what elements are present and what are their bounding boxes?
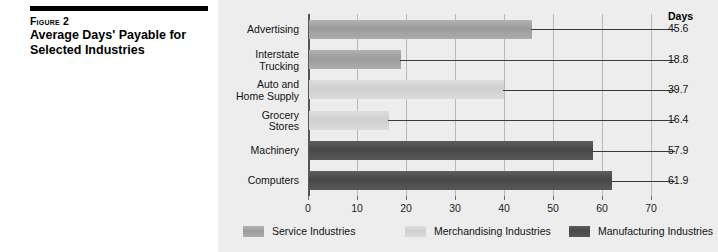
x-axis-tick — [455, 196, 456, 200]
plot-area: 010203040506070AdvertisingInterstateTruc… — [308, 14, 651, 196]
value-leader-line — [531, 29, 675, 30]
figure-number-label: Figure 2 — [30, 15, 69, 27]
days-value: 45.6 — [668, 22, 688, 34]
gridline — [455, 14, 456, 196]
bar — [309, 80, 504, 99]
legend-swatch — [243, 226, 264, 237]
category-label-line: Stores — [269, 120, 299, 132]
category-label-line: Machinery — [251, 144, 299, 156]
y-axis-line — [308, 14, 310, 196]
days-value: 57.9 — [668, 144, 688, 156]
value-leader-line — [611, 181, 675, 182]
value-leader-line — [503, 90, 675, 91]
value-leader-line — [592, 151, 675, 152]
category-label-line: Trucking — [259, 60, 299, 72]
x-axis-tick-label: 30 — [449, 202, 461, 214]
legend-item: Manufacturing Industries — [569, 225, 713, 237]
bar — [309, 141, 593, 160]
x-axis-tick — [553, 196, 554, 200]
legend-label: Service Industries — [272, 225, 355, 237]
category-label-line: Advertising — [247, 23, 299, 35]
days-value: 18.8 — [668, 53, 688, 65]
x-axis-tick — [308, 196, 309, 200]
x-axis-tick-label: 0 — [305, 202, 311, 214]
x-axis-tick — [651, 196, 652, 200]
bar — [309, 111, 389, 130]
gridline — [406, 14, 407, 196]
days-value: 16.4 — [668, 113, 688, 125]
value-leader-line — [400, 60, 675, 61]
x-axis-tick — [406, 196, 407, 200]
x-axis-tick — [504, 196, 505, 200]
category-label: Computers — [248, 175, 299, 187]
category-label: GroceryStores — [262, 110, 299, 133]
category-label: Machinery — [251, 145, 299, 157]
legend-item: Merchandising Industries — [405, 225, 551, 237]
figure-title: Average Days' Payable for Selected Indus… — [30, 28, 210, 57]
x-axis-tick-label: 50 — [547, 202, 559, 214]
legend-swatch — [405, 226, 426, 237]
gridline — [602, 14, 603, 196]
gridline — [357, 14, 358, 196]
days-column-header: Days — [668, 10, 693, 22]
legend-item: Service Industries — [243, 225, 355, 237]
legend-label: Manufacturing Industries — [598, 225, 713, 237]
figure-title-line-1: Average Days' Payable for — [30, 28, 186, 42]
x-axis-tick-label: 10 — [351, 202, 363, 214]
days-value: 61.9 — [668, 174, 688, 186]
x-axis-tick-label: 20 — [400, 202, 412, 214]
legend-label: Merchandising Industries — [434, 225, 551, 237]
figure-title-line-2: Selected Industries — [30, 43, 145, 57]
category-label: InterstateTrucking — [255, 49, 299, 72]
category-label-line: Interstate — [255, 48, 299, 60]
category-label: Advertising — [247, 24, 299, 36]
category-label: Auto andHome Supply — [236, 79, 299, 102]
category-label-line: Grocery — [262, 109, 299, 121]
gridline — [504, 14, 505, 196]
x-axis-tick-label: 70 — [645, 202, 657, 214]
x-axis-tick — [357, 196, 358, 200]
category-label-line: Computers — [248, 174, 299, 186]
chart-panel: 010203040506070AdvertisingInterstateTruc… — [218, 0, 718, 252]
category-label-line: Home Supply — [236, 90, 299, 102]
value-leader-line — [388, 120, 675, 121]
days-value: 39.7 — [668, 83, 688, 95]
figure-caption-block: Figure 2 Average Days' Payable for Selec… — [0, 0, 218, 252]
figure-root: Figure 2 Average Days' Payable for Selec… — [0, 0, 718, 252]
legend-swatch — [569, 226, 590, 237]
gridline — [553, 14, 554, 196]
bar — [309, 20, 532, 39]
x-axis-tick-label: 60 — [596, 202, 608, 214]
category-label-line: Auto and — [257, 78, 299, 90]
bar — [309, 171, 612, 190]
chart-legend: Service IndustriesMerchandising Industri… — [218, 221, 718, 241]
gridline — [651, 14, 652, 196]
bar — [309, 50, 401, 69]
caption-top-rule — [30, 6, 208, 11]
x-axis-tick-label: 40 — [498, 202, 510, 214]
x-axis-tick — [602, 196, 603, 200]
